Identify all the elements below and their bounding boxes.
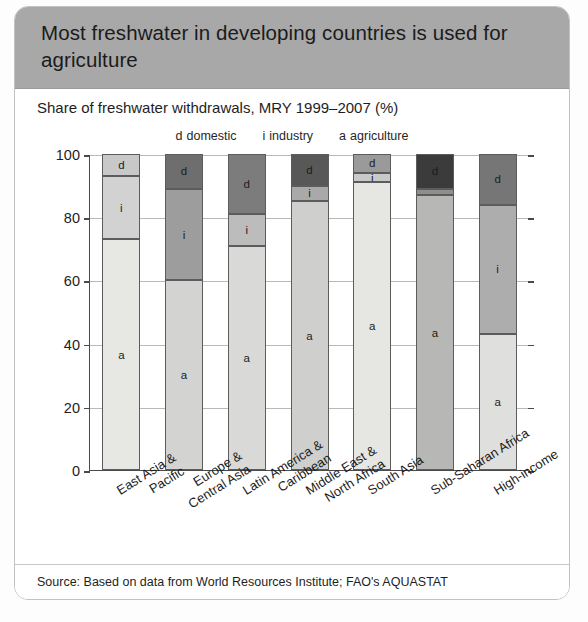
- bar-segment-d[interactable]: d: [416, 154, 454, 189]
- legend-entry-domestic: ddomestic: [176, 129, 237, 143]
- y-axis-label-40: 40: [64, 337, 80, 353]
- y-axis-label-80: 80: [64, 210, 80, 226]
- y-tick-60: [84, 281, 90, 283]
- legend-key-agriculture: a: [339, 129, 346, 143]
- y-tick-40: [84, 345, 90, 347]
- bar-segment-d[interactable]: d: [228, 154, 266, 214]
- y-tick-100: [84, 155, 90, 157]
- bar-segment-d[interactable]: d: [479, 154, 517, 205]
- y-tick-right-60: [528, 281, 534, 283]
- bar-east-asia-pacific[interactable]: aid: [102, 154, 140, 470]
- bar-latin-america-caribbean[interactable]: aid: [228, 154, 266, 470]
- legend-label-domestic: domestic: [187, 129, 237, 143]
- figure-card: Most freshwater in developing countries …: [14, 6, 570, 600]
- bar-segment-d[interactable]: d: [291, 154, 329, 186]
- bar-segment-i[interactable]: i: [165, 189, 203, 281]
- bar-segment-a[interactable]: a: [353, 182, 391, 470]
- bar-middle-east-north-africa[interactable]: aid: [291, 154, 329, 470]
- legend-entry-industry: iindustry: [263, 129, 314, 143]
- bar-segment-a[interactable]: a: [291, 201, 329, 470]
- y-axis-label-100: 100: [56, 147, 80, 163]
- chart-legend: ddomesticiindustryaagriculture: [15, 129, 569, 143]
- bar-segment-i[interactable]: [416, 189, 454, 195]
- source-divider: [15, 564, 569, 565]
- legend-entry-agriculture: aagriculture: [339, 129, 408, 143]
- legend-key-industry: i: [263, 129, 266, 143]
- bar-segment-d[interactable]: d: [165, 154, 203, 189]
- bar-high-income[interactable]: aid: [479, 154, 517, 470]
- source-note: Source: Based on data from World Resourc…: [37, 575, 448, 589]
- legend-label-agriculture: agriculture: [350, 129, 408, 143]
- page-title: Most freshwater in developing countries …: [41, 19, 543, 73]
- bar-segment-i[interactable]: i: [291, 186, 329, 202]
- bar-segment-a[interactable]: a: [416, 195, 454, 470]
- legend-key-domestic: d: [176, 129, 183, 143]
- y-tick-right-80: [528, 218, 534, 220]
- bar-segment-i[interactable]: i: [353, 173, 391, 182]
- y-tick-right-20: [528, 408, 534, 410]
- y-axis-label-20: 20: [64, 400, 80, 416]
- figure-body: Share of freshwater withdrawals, MRY 199…: [15, 89, 569, 600]
- y-axis-label-60: 60: [64, 273, 80, 289]
- bar-segment-i[interactable]: i: [228, 214, 266, 246]
- bar-south-asia[interactable]: aid: [353, 154, 391, 470]
- bar-segment-a[interactable]: a: [228, 246, 266, 470]
- plot-frame: 020406080100aidaidaidaidaidadaid: [89, 155, 528, 471]
- bar-segment-i[interactable]: i: [102, 176, 140, 239]
- y-tick-right-100: [528, 155, 534, 157]
- y-tick-20: [84, 408, 90, 410]
- y-tick-right-40: [528, 345, 534, 347]
- bar-segment-d[interactable]: d: [102, 154, 140, 176]
- y-tick-80: [84, 218, 90, 220]
- bar-segment-i[interactable]: i: [479, 205, 517, 335]
- bar-segment-a[interactable]: a: [165, 280, 203, 470]
- bar-segment-a[interactable]: a: [102, 239, 140, 470]
- y-tick-0: [84, 471, 90, 473]
- bar-europe-central-asia[interactable]: aid: [165, 154, 203, 470]
- bar-segment-d[interactable]: d: [353, 154, 391, 173]
- chart-subtitle: Share of freshwater withdrawals, MRY 199…: [37, 99, 398, 116]
- y-axis-label-0: 0: [72, 463, 80, 479]
- bar-sub-saharan-africa[interactable]: ad: [416, 154, 454, 470]
- figure-header: Most freshwater in developing countries …: [15, 7, 569, 89]
- legend-label-industry: industry: [269, 129, 313, 143]
- plot-area: 020406080100aidaidaidaidaidadaid East As…: [15, 147, 569, 487]
